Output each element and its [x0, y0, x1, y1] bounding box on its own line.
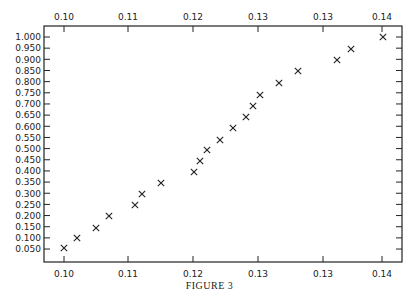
y-tick-label: 0.950: [15, 43, 41, 53]
y-tick-label: 0.650: [15, 110, 41, 120]
y-tick-label: 0.350: [15, 177, 41, 187]
data-points: [61, 34, 386, 251]
x-marker-icon: [106, 213, 112, 219]
x-marker-icon: [276, 80, 282, 86]
x-marker-icon: [380, 34, 386, 40]
x-marker-icon: [204, 147, 210, 153]
x-tick-label-top: 0.14: [372, 12, 392, 22]
x-marker-icon: [61, 245, 67, 251]
y-axis-right: [396, 37, 402, 249]
x-marker-icon: [348, 46, 354, 52]
x-marker-icon: [334, 57, 340, 63]
x-tick-label-top: 0.12: [183, 12, 203, 22]
x-marker-icon: [250, 103, 256, 109]
x-tick-label-top: 0.10: [54, 12, 74, 22]
y-tick-label: 0.800: [15, 77, 41, 87]
x-marker-icon: [295, 68, 301, 74]
x-marker-icon: [243, 114, 249, 120]
y-tick-label: 0.700: [15, 99, 41, 109]
x-marker-icon: [217, 137, 223, 143]
x-tick-label-top: 0.13: [248, 12, 268, 22]
scatter-chart: 0.100.110.120.130.130.14 0.100.110.120.1…: [0, 0, 419, 299]
x-marker-icon: [93, 225, 99, 231]
y-tick-label: 0.450: [15, 155, 41, 165]
y-tick-label: 0.550: [15, 133, 41, 143]
y-tick-label: 0.600: [15, 122, 41, 132]
x-marker-icon: [191, 169, 197, 175]
y-axis-left: 1.0000.9500.9000.8500.8000.7500.7000.650…: [15, 32, 50, 254]
y-tick-label: 0.250: [15, 200, 41, 210]
x-marker-icon: [139, 191, 145, 197]
y-tick-label: 0.400: [15, 166, 41, 176]
y-tick-label: 0.500: [15, 144, 41, 154]
x-tick-label-bottom: 0.13: [248, 269, 268, 279]
y-tick-label: 0.300: [15, 189, 41, 199]
x-tick-label-bottom: 0.11: [118, 269, 138, 279]
x-axis-top: 0.100.110.120.130.130.14: [54, 12, 392, 32]
y-tick-label: 0.050: [15, 244, 41, 254]
x-tick-label-bottom: 0.12: [183, 269, 203, 279]
y-tick-label: 0.850: [15, 66, 41, 76]
x-tick-label-bottom: 0.10: [54, 269, 74, 279]
x-tick-label-bottom: 0.14: [372, 269, 392, 279]
y-tick-label: 0.150: [15, 222, 41, 232]
x-tick-label-top: 0.13: [313, 12, 333, 22]
x-tick-label-bottom: 0.13: [313, 269, 333, 279]
y-tick-label: 0.200: [15, 211, 41, 221]
x-marker-icon: [197, 158, 203, 164]
y-tick-label: 0.900: [15, 55, 41, 65]
figure-caption: FIGURE 3: [0, 280, 419, 291]
x-marker-icon: [230, 125, 236, 131]
y-tick-label: 0.750: [15, 88, 41, 98]
x-axis-bottom: 0.100.110.120.130.130.14: [54, 256, 392, 279]
x-marker-icon: [257, 92, 263, 98]
x-marker-icon: [158, 180, 164, 186]
x-marker-icon: [132, 202, 138, 208]
y-tick-label: 0.100: [15, 233, 41, 243]
x-tick-label-top: 0.11: [118, 12, 138, 22]
x-marker-icon: [74, 235, 80, 241]
y-tick-label: 1.000: [15, 32, 41, 42]
